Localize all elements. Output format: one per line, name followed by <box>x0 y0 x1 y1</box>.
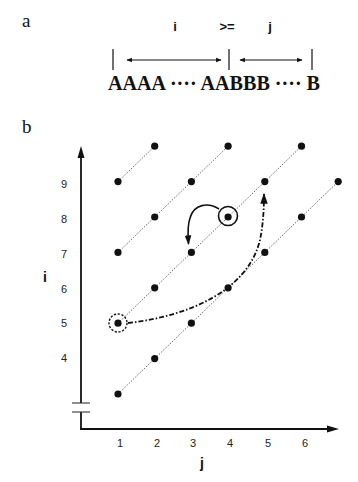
y-tick: 7 <box>61 248 67 260</box>
panel-b-label: b <box>22 116 32 137</box>
diagonal-line <box>118 146 155 181</box>
x-tick: 3 <box>190 437 196 449</box>
y-tick: 4 <box>61 352 67 364</box>
x-tick: 1 <box>117 437 123 449</box>
x-tick: 6 <box>302 437 308 449</box>
x-axis-title: j <box>199 455 204 471</box>
lattice-dot <box>188 249 195 256</box>
figure: a i >= j AAAA ···· AABBB ···· B b 4 5 6 … <box>0 0 358 482</box>
panel-a: a i >= j AAAA ···· AABBB ···· B <box>22 10 320 95</box>
y-tick: 6 <box>61 283 67 295</box>
x-tick: 5 <box>265 437 271 449</box>
lattice-dot <box>298 213 305 220</box>
lattice-dot <box>225 213 232 220</box>
lattice-dot <box>188 320 195 327</box>
lattice-dot <box>151 213 158 220</box>
x-axis-arrowhead <box>327 426 339 433</box>
lattice-dot <box>261 249 268 256</box>
lattice-dot <box>114 178 121 185</box>
diagonal-lines <box>118 146 338 394</box>
diagonal-line <box>118 146 228 252</box>
y-tick-labels: 4 5 6 7 8 9 <box>61 178 67 364</box>
y-axis-arrowhead <box>78 146 85 158</box>
lattice-dot <box>298 143 305 150</box>
lattice-dot <box>261 178 268 185</box>
lattice-dot <box>151 143 158 150</box>
panel-b: b 4 5 6 7 8 9 i 1 2 3 4 5 6 j <box>22 116 342 471</box>
x-tick: 4 <box>227 437 233 449</box>
panel-a-label: a <box>22 10 31 31</box>
lattice-dot <box>225 143 232 150</box>
x-tick-labels: 1 2 3 4 5 6 <box>117 437 308 449</box>
x-tick: 2 <box>154 437 160 449</box>
axis-break-gap <box>74 403 88 412</box>
y-tick: 9 <box>61 178 67 190</box>
dash-dot-curved-arrow <box>128 194 264 323</box>
sequence-text: AAAA ···· AABBB ···· B <box>108 70 320 95</box>
lattice-dot <box>114 390 121 397</box>
lattice-dot <box>114 249 121 256</box>
lattice-dot <box>151 284 158 291</box>
y-tick: 5 <box>61 317 67 329</box>
lattice-dot <box>114 320 121 327</box>
label-j: j <box>267 19 272 34</box>
lattice-dot <box>151 355 158 362</box>
y-tick: 8 <box>61 213 67 225</box>
y-axis-title: i <box>43 269 47 285</box>
solid-curved-arrow <box>188 205 219 244</box>
lattice-dot <box>335 178 342 185</box>
label-relation: >= <box>219 19 235 34</box>
grid-dots <box>114 143 341 398</box>
label-i: i <box>173 19 177 34</box>
lattice-dot <box>188 178 195 185</box>
diagonal-line <box>118 146 302 323</box>
